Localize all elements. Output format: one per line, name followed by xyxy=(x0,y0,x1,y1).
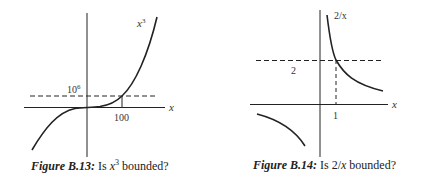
figure-b14-caption: Figure B.14: Is 2/x bounded? xyxy=(253,158,396,173)
figure-b14-plot: 2/x x 2 1 xyxy=(250,10,397,157)
caption-figure-number: Figure B.13: xyxy=(31,159,95,173)
figure-b13-caption: Figure B.13: Is x3 bounded? xyxy=(31,158,169,174)
caption-text: Is xyxy=(95,159,110,173)
figures-canvas: x3 x 106 100 2/x x 2 1 xyxy=(0,0,424,177)
caption-text-end: bounded? xyxy=(346,158,396,172)
caption-text: Is 2/ xyxy=(317,158,341,172)
curve-label: 2/x xyxy=(334,10,347,21)
tick-label: 100 xyxy=(114,112,129,123)
bound-label: 106 xyxy=(67,83,81,95)
caption-figure-number: Figure B.14: xyxy=(253,158,317,172)
cubic-curve xyxy=(32,17,157,150)
hyperbola-left-branch xyxy=(257,114,305,146)
tick-label: 1 xyxy=(333,110,338,121)
figure-b13-plot: x3 x 106 100 xyxy=(24,13,174,157)
caption-text-end: bounded? xyxy=(119,159,169,173)
x-axis-label: x xyxy=(391,98,397,110)
curve-label: x3 xyxy=(136,17,146,29)
bound-label: 2 xyxy=(291,65,296,76)
hyperbola-right-branch xyxy=(327,15,383,91)
x-axis-label: x xyxy=(168,101,174,113)
